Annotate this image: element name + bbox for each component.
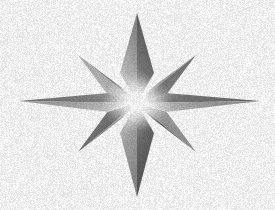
core-highlight — [123, 91, 149, 111]
eight-pointed-star-burst — [0, 0, 275, 210]
artboard — [0, 0, 275, 210]
